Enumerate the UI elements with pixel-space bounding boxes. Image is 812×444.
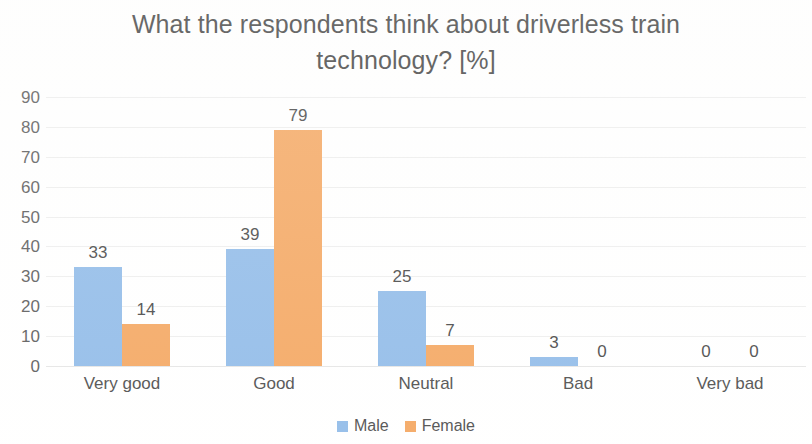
bar-value-label: 0 <box>701 343 710 360</box>
bar-slot: 7 <box>426 97 474 366</box>
bar-chart: What the respondents think about driverl… <box>0 0 812 444</box>
chart-title-line-1: What the respondents think about driverl… <box>106 6 706 42</box>
y-axis: 9080706050403020100 <box>0 97 40 366</box>
bar-group-bars: 3314 <box>46 97 198 366</box>
y-axis-tick-label: 50 <box>0 209 40 226</box>
y-axis-tick-label: 90 <box>0 89 40 106</box>
bar-value-label: 14 <box>137 301 156 318</box>
bar-group-bars: 30 <box>502 97 654 366</box>
bar-value-label: 0 <box>597 343 606 360</box>
bar-group: 00 <box>654 97 806 366</box>
legend-swatch-icon <box>405 421 416 432</box>
bar-slot: 0 <box>682 97 730 366</box>
legend-swatch-icon <box>337 421 348 432</box>
bar-slot: 33 <box>74 97 122 366</box>
legend-item-female[interactable]: Female <box>405 418 475 434</box>
bar-value-label: 33 <box>89 244 108 261</box>
y-axis-tick-label: 80 <box>0 119 40 136</box>
y-axis-tick-label: 10 <box>0 328 40 345</box>
x-axis-tick-label: Bad <box>502 374 654 394</box>
x-axis-tick-label: Good <box>198 374 350 394</box>
bar-value-label: 0 <box>749 343 758 360</box>
bar-slot: 0 <box>730 97 778 366</box>
bar-slot: 25 <box>378 97 426 366</box>
bar-slot: 79 <box>274 97 322 366</box>
y-axis-tick-label: 70 <box>0 149 40 166</box>
bar-value-label: 79 <box>289 107 308 124</box>
bar-value-label: 39 <box>241 226 260 243</box>
chart-title: What the respondents think about driverl… <box>106 6 706 78</box>
y-axis-tick-label: 30 <box>0 268 40 285</box>
bar-group: 257 <box>350 97 502 366</box>
bar-group-bars: 257 <box>350 97 502 366</box>
y-axis-tick-label: 60 <box>0 179 40 196</box>
plot-area: 331439792573000 <box>46 97 806 366</box>
bar-female[interactable] <box>122 324 170 366</box>
bar-female[interactable] <box>274 130 322 366</box>
bar-value-label: 7 <box>445 322 454 339</box>
bar-slot: 14 <box>122 97 170 366</box>
bar-group-bars: 00 <box>654 97 806 366</box>
y-axis-tick-label: 40 <box>0 238 40 255</box>
bar-value-label: 25 <box>393 268 412 285</box>
x-axis-tick-label: Neutral <box>350 374 502 394</box>
bar-group-bars: 3979 <box>198 97 350 366</box>
x-axis-tick-label: Very good <box>46 374 198 394</box>
bar-male[interactable] <box>530 357 578 366</box>
chart-title-line-2: technology? [%] <box>106 42 706 78</box>
bar-slot: 39 <box>226 97 274 366</box>
bar-male[interactable] <box>378 291 426 366</box>
legend-label: Female <box>422 418 475 434</box>
bar-group: 3314 <box>46 97 198 366</box>
bar-female[interactable] <box>426 345 474 366</box>
bar-group: 30 <box>502 97 654 366</box>
bar-slot: 0 <box>578 97 626 366</box>
bar-slot: 3 <box>530 97 578 366</box>
legend-item-male[interactable]: Male <box>337 418 389 434</box>
bar-value-label: 3 <box>549 334 558 351</box>
x-axis: Very goodGoodNeutralBadVery bad <box>46 374 806 400</box>
bar-male[interactable] <box>74 267 122 366</box>
bar-group: 3979 <box>198 97 350 366</box>
x-axis-tick-label: Very bad <box>654 374 806 394</box>
bar-male[interactable] <box>226 249 274 366</box>
y-axis-tick-label: 0 <box>0 358 40 375</box>
y-axis-tick-label: 20 <box>0 298 40 315</box>
legend-label: Male <box>354 418 389 434</box>
chart-legend: MaleFemale <box>0 418 812 434</box>
axis-baseline <box>46 366 806 367</box>
